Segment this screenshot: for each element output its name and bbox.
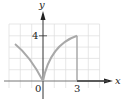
x-axis-label: x <box>115 76 121 86</box>
x-tick-label-3: 3 <box>74 84 80 94</box>
y-axis-label: y <box>39 0 45 10</box>
grid <box>9 24 100 88</box>
function-graph <box>0 0 125 103</box>
curve-left-branch <box>15 44 43 81</box>
y-tick-label-4: 4 <box>32 31 38 41</box>
origin-label: 0 <box>35 84 41 94</box>
